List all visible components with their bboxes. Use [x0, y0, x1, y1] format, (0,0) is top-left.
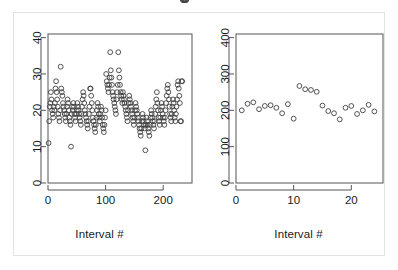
x-axis-tick-label: 0: [45, 194, 51, 206]
data-point: [349, 104, 354, 109]
data-point: [239, 108, 244, 113]
data-point: [372, 109, 377, 114]
data-point: [245, 101, 250, 106]
y-axis-tick-label: 200: [219, 101, 231, 120]
y-axis-tick-label: 0: [31, 180, 43, 186]
x-axis-tick-label: 0: [233, 194, 239, 206]
data-point: [116, 68, 121, 73]
scatter-plot-right-svg: 010020030040001020: [199, 0, 398, 215]
x-axis-title-right: Interval #: [199, 228, 398, 240]
x-axis-tick-label: 200: [154, 194, 173, 206]
data-point: [55, 97, 60, 102]
scatter-plot-left-svg: 0102030400100200: [0, 0, 199, 215]
data-point: [89, 93, 94, 98]
data-point: [108, 68, 113, 73]
data-point: [280, 111, 285, 116]
data-point: [69, 144, 74, 149]
y-axis-tick-label: 300: [219, 64, 231, 83]
data-point: [58, 64, 63, 69]
data-point: [177, 93, 182, 98]
x-axis-title-left: Interval #: [0, 228, 199, 240]
x-axis-tick-label: 100: [96, 194, 115, 206]
data-point: [262, 104, 267, 109]
data-point: [274, 105, 279, 110]
data-point: [360, 108, 365, 113]
data-point: [89, 101, 94, 106]
scatter-panel-right: 010020030040001020 Interval #: [199, 0, 398, 270]
data-point: [251, 100, 256, 105]
data-point: [54, 79, 59, 84]
data-point: [303, 87, 308, 92]
x-axis-tick-label: 10: [287, 194, 300, 206]
data-point: [143, 148, 148, 153]
data-point: [163, 108, 168, 113]
data-point: [116, 50, 121, 55]
y-axis-tick-label: 20: [31, 104, 43, 117]
y-axis-tick-label: 0: [219, 180, 231, 186]
data-point: [117, 75, 122, 80]
data-point: [291, 116, 296, 121]
data-point: [178, 101, 183, 106]
data-point: [47, 119, 52, 124]
data-point: [309, 88, 314, 93]
scatter-panel-left: 0102030400100200 Interval #: [0, 0, 199, 270]
figure-canvas: 0102030400100200 Interval # 010020030040…: [0, 0, 398, 270]
data-point: [257, 107, 262, 112]
data-point: [355, 112, 360, 117]
x-axis-tick-label: 20: [345, 194, 358, 206]
data-point: [90, 108, 95, 113]
data-point: [332, 111, 337, 116]
y-axis-tick-label: 100: [219, 137, 231, 156]
data-point: [320, 103, 325, 108]
data-point: [285, 102, 290, 107]
y-axis-tick-label: 40: [31, 31, 43, 44]
data-point: [108, 50, 113, 55]
data-point: [326, 109, 331, 114]
y-axis-tick-label: 10: [31, 140, 43, 153]
data-point: [337, 117, 342, 122]
data-point: [268, 103, 273, 108]
data-point: [114, 97, 119, 102]
data-point: [48, 90, 53, 95]
y-axis-tick-label: 400: [219, 28, 231, 47]
data-point: [366, 102, 371, 107]
data-point: [297, 84, 302, 89]
data-point: [103, 115, 108, 120]
data-point: [46, 141, 51, 146]
data-point: [343, 105, 348, 110]
data-point: [154, 90, 159, 95]
data-point: [110, 82, 115, 87]
data-point: [314, 89, 319, 94]
y-axis-tick-label: 30: [31, 68, 43, 81]
